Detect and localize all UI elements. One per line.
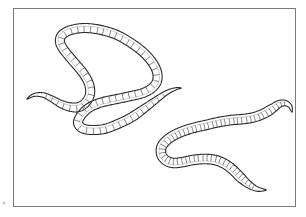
illustration-figure xyxy=(0,0,306,217)
figure-background xyxy=(0,0,306,217)
worm-illustration-canvas xyxy=(0,0,306,217)
bottom-left-speck-artifact xyxy=(2,201,5,204)
